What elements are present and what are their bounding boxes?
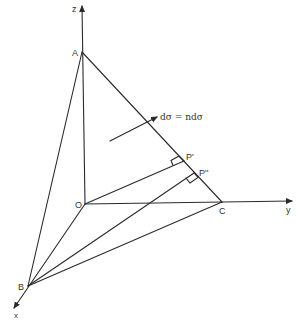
normal-vector-arrow	[110, 117, 157, 141]
point-b-label: B	[18, 282, 24, 292]
z-axis	[82, 6, 85, 204]
line-o-p-prime	[85, 161, 184, 204]
point-c-label: C	[219, 206, 226, 216]
line-b-p-double-prime	[28, 173, 194, 286]
point-p-prime-label: P'	[186, 152, 194, 162]
y-axis	[85, 201, 292, 204]
edge-a-c	[82, 52, 222, 202]
tetrahedron-diagram: z y x A O B C P' P'' dσ = ndσ	[0, 0, 300, 329]
y-axis-label: y	[286, 205, 291, 215]
point-o-label: O	[75, 200, 82, 210]
edge-a-b	[28, 52, 82, 286]
z-axis-label: z	[72, 4, 77, 14]
area-vector-equation: dσ = ndσ	[160, 112, 203, 122]
x-axis	[14, 204, 85, 308]
diagram-svg: z y x A O B C P' P'' dσ = ndσ	[0, 0, 300, 329]
point-p-double-prime-label: P''	[199, 168, 209, 178]
point-a-label: A	[72, 48, 78, 58]
x-axis-label: x	[14, 311, 18, 320]
